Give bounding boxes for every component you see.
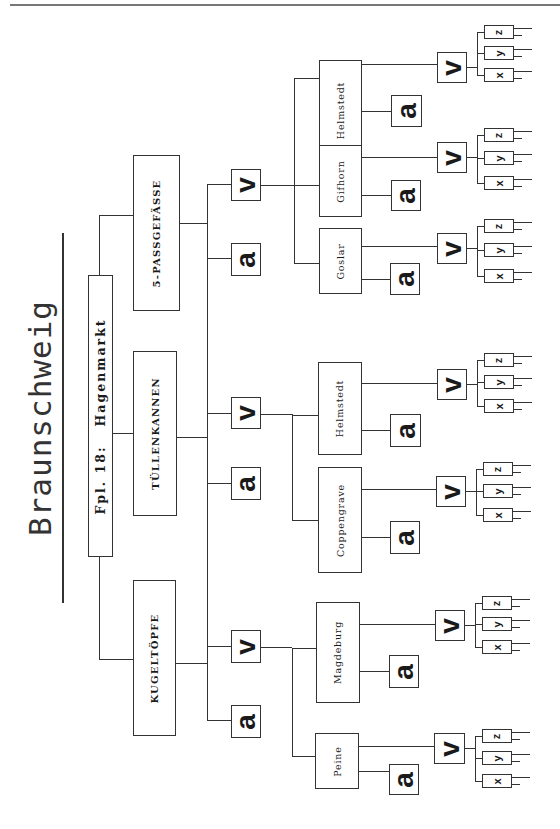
y-label: y xyxy=(494,155,505,161)
bracket-tick xyxy=(475,647,482,648)
z-box-gifhorn: z xyxy=(484,128,514,142)
bracket-tick xyxy=(476,469,483,470)
coppengrave-to-v xyxy=(362,489,437,490)
bracket-tick xyxy=(477,32,484,33)
a-box-passgefaesse: a xyxy=(231,243,261,276)
magdeburg-to-v xyxy=(360,624,435,625)
root-label: Fpl. 18: Hagenmarkt xyxy=(93,318,108,514)
y-box-gifhorn: y xyxy=(484,151,514,165)
z-label: z xyxy=(492,600,503,606)
y-label: y xyxy=(494,50,505,56)
v-box-helmstedt-tuellenkannen: v xyxy=(437,369,467,400)
output-lead xyxy=(514,131,532,132)
bracket-tick xyxy=(475,758,482,759)
v-to-xyz-goslar xyxy=(467,248,477,249)
x-box-gifhorn: x xyxy=(484,176,514,190)
gifhorn-to-a xyxy=(362,195,391,196)
city-box-goslar: Goslar xyxy=(319,228,362,294)
bracket-tick xyxy=(477,276,484,277)
z-box-coppengrave: z xyxy=(483,462,513,476)
v-to-xyz-helmstedt-passgefaesse xyxy=(467,67,477,68)
coppengrave-to-a xyxy=(362,537,390,538)
bracket-tick xyxy=(477,360,484,361)
root-to-passgefaesse xyxy=(99,215,134,216)
diagram-title: Braunschweig xyxy=(20,233,60,603)
subbus-to-gifhorn xyxy=(294,185,319,186)
root-spine-top xyxy=(99,215,100,275)
bracket-tick xyxy=(476,515,483,516)
z-label: z xyxy=(493,466,504,472)
x-box-magdeburg: x xyxy=(482,640,512,654)
output-lead-short xyxy=(513,472,521,473)
v-to-subbus-passgefaesse xyxy=(261,185,295,186)
z-box-peine: z xyxy=(482,729,512,743)
y-box-goslar: y xyxy=(484,243,514,257)
a-box-coppengrave: a xyxy=(390,521,420,554)
output-lead xyxy=(513,465,531,466)
x-box-peine: x xyxy=(482,774,512,788)
bracket-tick xyxy=(477,406,484,407)
output-lead xyxy=(514,246,532,247)
v-box-helmstedt-passgefaesse: v xyxy=(437,52,467,83)
x-box-helmstedt-tuellenkannen: x xyxy=(484,399,514,413)
bracket-tick xyxy=(477,135,484,136)
output-lead-short xyxy=(514,253,522,254)
v-to-xyz-peine xyxy=(465,748,475,749)
output-lead-short xyxy=(512,606,520,607)
output-lead xyxy=(513,487,531,488)
z-label: z xyxy=(494,132,505,138)
bracket-tick xyxy=(476,491,483,492)
y-label: y xyxy=(494,379,505,385)
z-label: z xyxy=(492,733,503,739)
output-lead xyxy=(512,732,530,733)
city-box-gifhorn: Gifhorn xyxy=(319,145,362,217)
z-label: z xyxy=(494,29,505,35)
v-box-coppengrave: v xyxy=(436,476,466,507)
x-label: x xyxy=(494,403,505,409)
x-box-coppengrave: x xyxy=(483,508,513,522)
y-box-peine: y xyxy=(482,751,512,765)
root-to-kugeltoepfe xyxy=(99,659,134,660)
output-lead xyxy=(512,643,530,644)
subbus-kugeltoepfe xyxy=(292,648,293,757)
output-lead xyxy=(514,154,532,155)
v-to-xyz-gifhorn xyxy=(467,157,477,158)
output-lead-short xyxy=(512,761,520,762)
root-to-tuellenkannen xyxy=(113,433,134,434)
output-lead xyxy=(514,179,532,180)
y-label: y xyxy=(492,621,503,627)
tuellenkannen-to-bus xyxy=(177,437,207,438)
bus-to-a-passgefaesse xyxy=(207,258,231,259)
v-box-peine: v xyxy=(434,733,465,764)
v-to-xyz-magdeburg xyxy=(465,625,475,626)
passgefaesse-to-bus xyxy=(180,223,207,224)
bracket-tick xyxy=(477,75,484,76)
peine-to-a xyxy=(359,771,389,772)
helmstedt1-to-v xyxy=(362,64,437,65)
z-box-magdeburg: z xyxy=(482,596,512,610)
subbus-to-helmstedt-2 xyxy=(292,415,319,416)
a-box-gifhorn: a xyxy=(391,180,421,211)
kugeltoepfe-to-bus xyxy=(176,663,207,664)
output-lead-short xyxy=(514,161,522,162)
z-label: z xyxy=(494,357,505,363)
output-lead-short xyxy=(514,363,522,364)
bracket-tick xyxy=(475,736,482,737)
goslar-to-v xyxy=(362,246,437,247)
bracket-tick xyxy=(477,382,484,383)
z-box-helmstedt-passgefaesse: z xyxy=(484,25,514,39)
city-box-coppengrave: Coppengrave xyxy=(318,467,362,573)
bus-to-v-tuellenkannen xyxy=(207,413,231,414)
subbus-passgefaesse xyxy=(294,78,295,264)
title-text: Braunschweig xyxy=(22,300,58,536)
root-spine-bottom xyxy=(99,557,100,659)
city-box-magdeburg: Magdeburg xyxy=(316,602,360,703)
v-to-subbus-kugeltoepfe xyxy=(261,647,292,648)
output-lead-short xyxy=(514,78,522,79)
helmstedt1-to-a xyxy=(362,111,391,112)
subbus-tuellenkannen xyxy=(292,414,293,521)
magdeburg-to-a xyxy=(360,671,389,672)
bus-to-a-kugeltoepfe xyxy=(207,720,231,721)
gifhorn-to-v xyxy=(362,157,437,158)
y-label: y xyxy=(493,488,504,494)
